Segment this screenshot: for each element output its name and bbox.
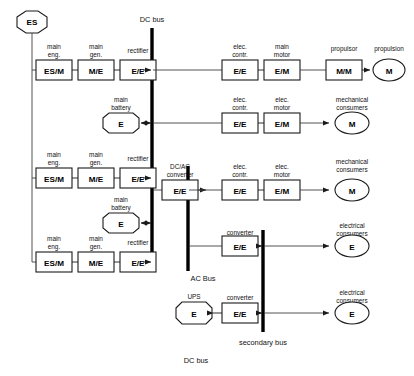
ups-label: E — [191, 310, 197, 319]
mech-consumers-dc-label: M — [349, 120, 356, 129]
main-eng-3-label: ES/M — [44, 259, 64, 268]
dc-bus-bottom-label: DC bus — [184, 356, 209, 365]
mech-consumers-dc-caption-2: consumers — [336, 104, 367, 111]
elec-motor-dc-label: E/M — [275, 120, 290, 129]
main-battery-1-caption-1: main — [114, 96, 128, 103]
elec-consumers-secondary-label: E — [349, 310, 355, 319]
elec-contr-mech-ac-caption-2: contr. — [232, 171, 248, 178]
secondary-bus-label: secondary bus — [239, 338, 287, 347]
main-gen-1-caption-1: main — [89, 43, 103, 50]
elec-contr-prop-caption-2: contr. — [232, 51, 248, 58]
mech-consumers-ac-caption-2: consumers — [336, 166, 367, 173]
mech-branch-dc-group: elec. contr. E/E elec. motor E/M mechani… — [153, 96, 369, 134]
main-battery-2-caption-2: battery — [111, 204, 131, 212]
main-gen-3-caption-1: main — [89, 235, 103, 242]
main-eng-2-caption-1: main — [47, 151, 61, 158]
main-eng-2-caption-2: eng. — [48, 159, 61, 167]
es-source[interactable]: ES — [17, 11, 47, 33]
ups-converter-label: E/E — [233, 310, 247, 319]
ac-bus-label: AC Bus — [190, 274, 215, 283]
main-eng-1-caption-1: main — [47, 43, 61, 50]
elec-contr-mech-dc-label: E/E — [233, 120, 247, 129]
converter-ac-caption-1: converter — [227, 229, 255, 236]
mech-consumers-ac-caption-1: mechanical — [336, 158, 368, 165]
mech-consumers-dc-caption-1: mechanical — [336, 96, 368, 103]
main-gen-1-caption-2: gen. — [90, 51, 103, 59]
chain-3-group: main eng. ES/M main gen. M/E rectifier E… — [36, 235, 156, 272]
main-battery-1-group: main battery E — [103, 96, 151, 133]
propulsion-branch-group: elec. contr. E/E main motor E/M propulso… — [153, 43, 405, 81]
elec-motor-ac-label: E/M — [275, 187, 290, 196]
elec-contr-prop-label: E/E — [233, 67, 247, 76]
electrical-branch-ac-group: converter E/E electrical consumers E — [189, 222, 369, 257]
main-gen-2-caption-2: gen. — [90, 159, 103, 167]
mech-branch-ac-group: elec. contr. E/E elec. motor E/M mechani… — [189, 158, 369, 201]
main-gen-3-label: M/E — [89, 259, 104, 268]
rectifier-2-caption-1: rectifier — [128, 155, 150, 162]
main-battery-2-group: main battery E — [103, 196, 151, 233]
elec-motor-ac-caption-2: motor — [274, 171, 291, 178]
main-motor-caption-2: motor — [274, 51, 291, 58]
main-gen-2-caption-1: main — [89, 151, 103, 158]
rectifier-3-caption-1: rectifier — [128, 239, 150, 246]
main-eng-2-label: ES/M — [44, 175, 64, 184]
main-battery-2-caption-1: main — [114, 196, 128, 203]
main-eng-3-caption-2: eng. — [48, 243, 61, 251]
elec-consumers-ac-label: E — [349, 243, 355, 252]
rectifier-2-label: E/E — [131, 175, 145, 184]
main-gen-1-label: M/E — [89, 67, 104, 76]
main-battery-1-caption-2: battery — [111, 104, 131, 112]
rectifier-1-label: E/E — [131, 67, 145, 76]
dcac-converter-group: DC/AC converter E/E — [153, 163, 206, 200]
chain-2-group: main eng. ES/M main gen. M/E rectifier E… — [36, 151, 156, 188]
ups-group: UPS E converter E/E electrical consumers… — [176, 289, 369, 324]
main-motor-label: E/M — [275, 67, 290, 76]
chain-1-group: main eng. ES/M main gen. M/E rectifier E… — [36, 43, 156, 80]
dcac-converter-caption-2: converter — [167, 171, 195, 178]
elec-contr-mech-ac-caption-1: elec. — [233, 163, 247, 170]
propulsion-caption-1: propulsion — [374, 45, 404, 53]
dcac-converter-caption-1: DC/AC — [170, 163, 190, 170]
main-eng-1-label: ES/M — [44, 67, 64, 76]
elec-motor-dc-caption-2: motor — [274, 104, 291, 111]
ups-caption-1: UPS — [187, 293, 200, 300]
main-eng-1-caption-2: eng. — [48, 51, 61, 59]
elec-contr-prop-caption-1: elec. — [233, 43, 247, 50]
rectifier-1-caption-1: rectifier — [128, 47, 150, 54]
main-battery-1-label: E — [118, 120, 124, 129]
es-source-label: ES — [27, 18, 38, 27]
elec-contr-mech-ac-label: E/E — [233, 187, 247, 196]
elec-contr-mech-dc-caption-2: contr. — [232, 104, 248, 111]
propulsor-caption-1: propulsor — [331, 45, 359, 53]
main-motor-caption-1: main — [275, 43, 289, 50]
main-gen-2-label: M/E — [89, 175, 104, 184]
elec-consumers-secondary-caption-1: electrical — [339, 289, 364, 296]
elec-consumers-ac-caption-1: electrical — [339, 222, 364, 229]
converter-ac-label: E/E — [233, 243, 247, 252]
dcac-converter-label: E/E — [173, 187, 187, 196]
main-gen-3-caption-2: gen. — [90, 243, 103, 251]
elec-motor-dc-caption-1: elec. — [275, 96, 289, 103]
elec-contr-mech-dc-caption-1: elec. — [233, 96, 247, 103]
rectifier-3-label: E/E — [131, 259, 145, 268]
ups-converter-caption-1: converter — [227, 294, 255, 301]
elec-motor-ac-caption-1: elec. — [275, 163, 289, 170]
main-eng-3-caption-1: main — [47, 235, 61, 242]
diagram-canvas: ES DC bus AC Bus secondary bus DC bus ma… — [0, 0, 414, 376]
dc-bus-main-label: DC bus — [140, 15, 165, 24]
main-battery-2-label: E — [118, 220, 124, 229]
propulsor-label: M/M — [336, 67, 352, 76]
propulsion-label: M — [386, 67, 393, 76]
power-architecture-diagram: ES DC bus AC Bus secondary bus DC bus ma… — [0, 0, 414, 376]
mech-consumers-ac-label: M — [349, 187, 356, 196]
